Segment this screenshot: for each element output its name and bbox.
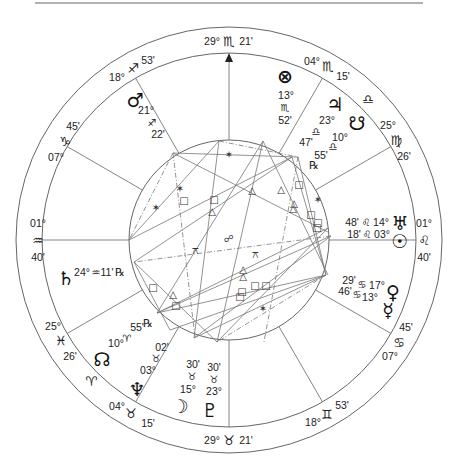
svg-text:53': 53' bbox=[335, 399, 349, 411]
planet-north-node[interactable]: ☊ 10° ♈ 55' ℞ bbox=[94, 317, 153, 370]
svg-text:♉: ♉ bbox=[152, 353, 161, 364]
svg-text:04°: 04° bbox=[109, 400, 125, 412]
planet-neptune[interactable]: ♆ 02' ♉ 03° bbox=[128, 341, 168, 400]
svg-text:03°: 03° bbox=[140, 364, 156, 376]
svg-text:40': 40' bbox=[31, 251, 45, 263]
svg-text:℞: ℞ bbox=[309, 159, 319, 171]
square-icon: □ bbox=[312, 222, 321, 233]
opposition-icon: ☍ bbox=[224, 233, 234, 244]
svg-text:♓: ♓ bbox=[55, 333, 67, 348]
svg-text:21': 21' bbox=[239, 434, 253, 446]
quincunx-icon: ⚻ bbox=[192, 245, 199, 256]
planet-part-of-fortune[interactable]: ⊗ 13° ♏ 52' bbox=[277, 65, 294, 126]
svg-text:02': 02' bbox=[155, 341, 169, 353]
svg-text:30': 30' bbox=[207, 361, 221, 373]
svg-text:40': 40' bbox=[417, 251, 431, 263]
sextile-icon: ✶ bbox=[176, 183, 184, 194]
svg-text:01°: 01° bbox=[416, 217, 432, 229]
trine-icon: △ bbox=[277, 184, 285, 195]
svg-text:48': 48' bbox=[345, 216, 359, 228]
mc-arrow-icon bbox=[225, 53, 233, 62]
square-icon: □ bbox=[235, 291, 244, 302]
svg-text:♋: ♋ bbox=[393, 335, 405, 350]
svg-text:♄: ♄ bbox=[57, 267, 74, 289]
svg-text:29°: 29° bbox=[204, 434, 220, 446]
svg-text:♆: ♆ bbox=[128, 378, 145, 400]
svg-text:52': 52' bbox=[278, 114, 292, 126]
svg-text:18°: 18° bbox=[109, 71, 125, 83]
natal-chart-wheel: ✶ ✶ ✶ ✶ ✶ □ □ □ □ □ □ □ □ □ □ □ □ △ △ △ … bbox=[0, 0, 457, 475]
svg-text:♍: ♍ bbox=[390, 133, 402, 148]
svg-text:18': 18' bbox=[347, 228, 361, 240]
planet-south-node[interactable]: ☋ 10° ♎ 55' ℞ bbox=[309, 112, 365, 171]
svg-text:11': 11' bbox=[101, 266, 114, 278]
svg-text:⊗: ⊗ bbox=[277, 65, 293, 87]
svg-text:23°: 23° bbox=[319, 114, 335, 126]
svg-text:♌: ♌ bbox=[418, 233, 430, 248]
cusp-sign-libra: ♎ bbox=[362, 92, 374, 107]
sextile-icon: ✶ bbox=[314, 194, 322, 205]
svg-text:♈: ♈ bbox=[123, 333, 132, 344]
trine-icon: △ bbox=[239, 271, 247, 282]
cusp-11-label: 04° ♏ 15' bbox=[304, 55, 350, 82]
svg-text:♊: ♊ bbox=[321, 407, 333, 422]
cusp-9-label: 18° ♐ 53' bbox=[109, 54, 155, 83]
square-icon: □ bbox=[209, 194, 218, 205]
svg-text:♌: ♌ bbox=[362, 217, 371, 228]
svg-text:29°: 29° bbox=[204, 35, 220, 47]
svg-text:04°: 04° bbox=[304, 55, 320, 67]
planet-pluto[interactable]: ♇ 30' ♉ 23° bbox=[201, 361, 221, 421]
svg-text:℞: ℞ bbox=[115, 266, 125, 278]
svg-text:26': 26' bbox=[63, 350, 77, 362]
planet-mars[interactable]: ♂ 21° ♐ 22' bbox=[126, 89, 164, 140]
svg-text:♉: ♉ bbox=[210, 374, 219, 385]
planet-moon[interactable]: ☽ 30' ♉ 15° bbox=[171, 358, 199, 417]
svg-text:07°: 07° bbox=[48, 151, 64, 163]
svg-text:01°: 01° bbox=[30, 217, 46, 229]
svg-text:25°: 25° bbox=[45, 320, 61, 332]
svg-text:℞: ℞ bbox=[143, 317, 153, 329]
svg-text:45': 45' bbox=[399, 321, 413, 333]
mc-label: 29° ♏ 21' bbox=[204, 34, 253, 49]
square-icon: □ bbox=[179, 195, 188, 206]
svg-text:15°: 15° bbox=[180, 383, 196, 395]
cusp-8-label: 45' ♑ 07° bbox=[48, 120, 80, 163]
svg-text:♉: ♉ bbox=[188, 371, 197, 382]
svg-text:♉: ♉ bbox=[223, 433, 235, 448]
planet-saturn[interactable]: ♄ 24° ♒ 11' ℞ bbox=[57, 266, 125, 289]
svg-text:18°: 18° bbox=[305, 416, 321, 428]
svg-text:21': 21' bbox=[239, 35, 253, 47]
svg-text:21°: 21° bbox=[138, 104, 154, 116]
dsc-label: 01° ♌ 40' bbox=[416, 217, 432, 263]
square-icon: □ bbox=[250, 280, 259, 291]
svg-text:45': 45' bbox=[66, 120, 80, 132]
svg-text:☊: ☊ bbox=[94, 348, 111, 370]
asc-label: 01° ♒ 40' bbox=[30, 217, 46, 263]
svg-text:♎: ♎ bbox=[329, 141, 338, 152]
square-icon: □ bbox=[294, 179, 303, 190]
svg-text:46': 46' bbox=[338, 285, 352, 297]
svg-text:♒: ♒ bbox=[92, 267, 101, 278]
svg-text:53': 53' bbox=[141, 54, 155, 66]
cusp-sign-aries: ♈ bbox=[85, 374, 97, 389]
svg-text:25°: 25° bbox=[380, 119, 396, 131]
square-icon: □ bbox=[148, 282, 157, 293]
square-icon: □ bbox=[261, 280, 270, 291]
cusp-3-label: 18° ♊ 53' bbox=[305, 399, 349, 428]
svg-text:♒: ♒ bbox=[32, 233, 44, 248]
ic-label: 29° ♉ 21' bbox=[204, 433, 253, 448]
svg-text:☉: ☉ bbox=[391, 230, 408, 252]
svg-text:☿: ☿ bbox=[382, 299, 394, 321]
svg-text:♐: ♐ bbox=[148, 117, 157, 128]
svg-text:03°: 03° bbox=[374, 228, 390, 240]
svg-text:13°: 13° bbox=[278, 89, 294, 101]
svg-text:♃: ♃ bbox=[326, 93, 343, 115]
svg-text:23°: 23° bbox=[206, 385, 222, 397]
svg-text:♌: ♌ bbox=[363, 229, 372, 240]
svg-text:♏: ♏ bbox=[322, 59, 334, 74]
sextile-icon: ✶ bbox=[259, 303, 267, 314]
svg-text:26': 26' bbox=[397, 150, 411, 162]
sextile-icon: ✶ bbox=[152, 202, 160, 213]
sextile-icon: ✶ bbox=[225, 149, 233, 160]
svg-text:14°: 14° bbox=[373, 216, 389, 228]
